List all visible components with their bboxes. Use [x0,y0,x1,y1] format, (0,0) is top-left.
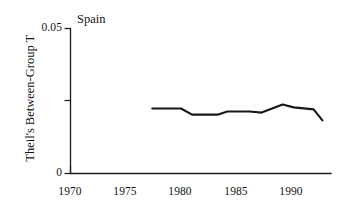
x-tick-label-1985: 1985 [211,186,261,198]
data-series-line [152,104,322,120]
y-axis-label: Theil's Between-Group T [24,13,37,183]
x-tick-label-1990: 1990 [266,186,316,198]
chart-figure: 0.05 0 1970 1975 1980 1985 1990 Spain Th… [0,0,345,211]
x-tick-label-1980: 1980 [155,186,205,198]
y-tick-label-zero: 0 [14,167,62,179]
panel-title: Spain [77,13,105,26]
x-tick-label-1970: 1970 [45,186,95,198]
x-tick-label-1975: 1975 [100,186,150,198]
y-tick-label-top: 0.05 [14,22,62,34]
